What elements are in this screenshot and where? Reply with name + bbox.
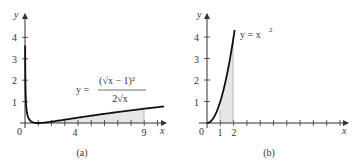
equation-b-exponent: 2 xyxy=(269,26,273,34)
y-tick-label-2: 2 xyxy=(12,75,17,86)
origin-label-a: 0 xyxy=(17,126,22,137)
equation-lhs: y = xyxy=(76,84,90,95)
y-tick-label-1-b: 1 xyxy=(194,97,199,108)
x-axis-label-a: x xyxy=(159,125,165,136)
equation-b-main: y = x xyxy=(240,29,261,40)
y-tick-label-1: 1 xyxy=(12,97,17,108)
y-tick-label-2-b: 2 xyxy=(194,75,199,86)
equation-denominator: 2√x xyxy=(112,93,128,104)
panel-a: y x 0 4 9 1 2 3 4 y = (√x − 1)² 2√x (a) xyxy=(12,9,166,159)
y-axis-label-a: y xyxy=(13,9,19,20)
panel-label-a: (a) xyxy=(76,147,87,159)
equation-b: y = x 2 xyxy=(240,26,273,40)
x-tick-label-4: 4 xyxy=(73,127,78,138)
equation-a: y = (√x − 1)² 2√x xyxy=(76,75,146,104)
x-tick-label-1: 1 xyxy=(218,127,223,138)
origin-label-b: 0 xyxy=(199,126,204,137)
figure: y x 0 4 9 1 2 3 4 y = (√x − 1)² 2√x (a) … xyxy=(0,0,357,162)
x-tick-label-9: 9 xyxy=(142,127,147,138)
x-tick-label-2: 2 xyxy=(232,127,237,138)
x-axis-label-b: x xyxy=(341,125,347,136)
y-tick-label-3: 3 xyxy=(12,54,17,65)
y-tick-label-4: 4 xyxy=(12,32,17,43)
y-tick-label-4-b: 4 xyxy=(194,32,199,43)
panel-label-b: (b) xyxy=(263,147,275,159)
y-tick-label-3-b: 3 xyxy=(194,54,199,65)
panel-b: y x 0 1 2 1 2 3 4 y = x 2 (b) xyxy=(194,9,348,159)
y-axis-label-b: y xyxy=(196,9,202,20)
equation-numerator: (√x − 1)² xyxy=(99,75,135,87)
